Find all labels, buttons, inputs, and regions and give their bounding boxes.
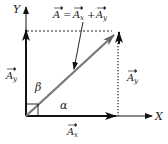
alpha-angle-label: α bbox=[60, 99, 68, 112]
formula-lhs: A bbox=[52, 9, 60, 20]
formula-term2-sub: y bbox=[102, 14, 108, 22]
svg-text:y: y bbox=[133, 77, 139, 85]
vector-diagram: Y X A = A x + A y A y A y A x α β bbox=[0, 0, 168, 144]
ay-label-right: A y bbox=[126, 70, 139, 86]
svg-text:y: y bbox=[12, 75, 18, 83]
svg-text:A: A bbox=[126, 72, 134, 83]
ay-label-left: A y bbox=[5, 68, 18, 84]
formula-term2: A bbox=[95, 9, 103, 20]
formula-term1: A bbox=[72, 9, 80, 20]
x-axis-label: X bbox=[154, 110, 164, 123]
formula-plus: + bbox=[87, 9, 95, 20]
formula-equals: = bbox=[63, 9, 71, 20]
resultant-vector bbox=[26, 35, 114, 116]
formula-pointer-arrow bbox=[74, 22, 83, 69]
svg-text:x: x bbox=[74, 131, 78, 139]
formula-term1-sub: x bbox=[80, 14, 84, 22]
beta-angle-label: β bbox=[34, 81, 41, 94]
formula: A = A x + A y bbox=[52, 7, 108, 23]
svg-text:A: A bbox=[5, 70, 13, 81]
ax-label: A x bbox=[66, 124, 78, 140]
svg-text:A: A bbox=[66, 126, 74, 137]
y-axis-label: Y bbox=[13, 3, 22, 16]
